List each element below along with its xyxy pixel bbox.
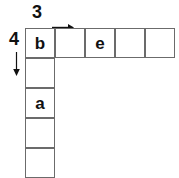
grid-cell-label: e [86, 29, 114, 57]
arrow-down-icon [12, 52, 21, 76]
grid-cell-label [26, 149, 54, 177]
grid-cell[interactable]: e [85, 28, 115, 58]
grid-cell[interactable] [115, 28, 145, 58]
grid-cell[interactable] [25, 58, 55, 88]
grid-cell-label [26, 59, 54, 87]
grid-cell-label [116, 29, 144, 57]
grid-cell[interactable] [25, 148, 55, 178]
grid-cell-label [146, 29, 174, 57]
grid-cell[interactable] [25, 118, 55, 148]
grid-cell-label [56, 29, 84, 57]
grid-cell[interactable] [55, 28, 85, 58]
grid-cell-label [26, 119, 54, 147]
column-count-label: 3 [32, 3, 42, 21]
l-grid-diagram: 3 4 b e a [0, 0, 179, 178]
grid-cell-label: a [26, 89, 54, 117]
grid-cell[interactable]: a [25, 88, 55, 118]
row-count-label: 4 [9, 30, 19, 48]
arrow-right-icon [52, 18, 74, 27]
grid-cell-label: b [26, 29, 54, 57]
grid-cell[interactable]: b [25, 28, 55, 58]
grid-cell[interactable] [145, 28, 175, 58]
